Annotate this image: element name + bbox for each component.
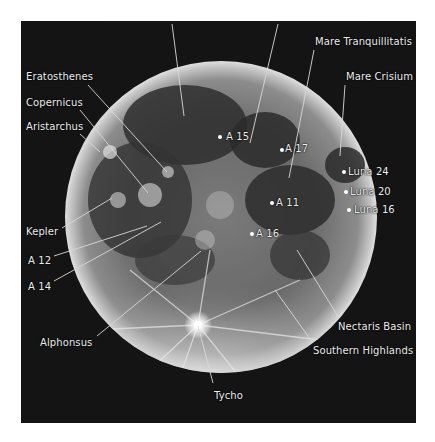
label-mare-imbrium: Mare Imbrium (105, 21, 176, 23)
label-kepler: Kepler (26, 226, 58, 238)
label-a-12: A 12 (28, 255, 51, 267)
site-dot-a-17 (280, 148, 284, 152)
label-mare-crisium: Mare Crisium (346, 71, 413, 83)
label-a-15: A 15 (226, 131, 249, 143)
label-luna-16: Luna 16 (354, 204, 395, 216)
label-a-16: A 16 (256, 228, 279, 240)
site-dot-a-15 (218, 135, 222, 139)
label-nectaris-basin: Nectaris Basin (338, 321, 411, 333)
label-tycho: Tycho (214, 390, 243, 402)
site-dot-luna-20 (344, 190, 348, 194)
label-mare-serenitatis: Mare Serenitatis (278, 21, 361, 23)
site-dot-a-16 (250, 232, 254, 236)
label-eratosthenes: Eratosthenes (26, 71, 93, 83)
site-dot-luna-16 (347, 208, 351, 212)
label-alphonsus: Alphonsus (40, 337, 92, 349)
label-luna-20: Luna 20 (350, 186, 391, 198)
label-southern-highlands: Southern Highlands (313, 345, 413, 357)
label-a-11: A 11 (276, 197, 299, 209)
site-dot-a-11 (270, 201, 274, 205)
label-luna-24: Luna 24 (348, 166, 389, 178)
label-aristarchus: Aristarchus (26, 121, 83, 133)
moon-disk (45, 61, 385, 415)
moon-figure: Mare Imbrium Eratosthenes Copernicus Ari… (21, 21, 416, 423)
label-a-14: A 14 (28, 281, 51, 293)
label-mare-tranquillitatis: Mare Tranquillitatis (315, 36, 412, 48)
label-copernicus: Copernicus (26, 97, 83, 109)
label-a-17: A 17 (285, 143, 308, 155)
site-dot-luna-24 (342, 170, 346, 174)
